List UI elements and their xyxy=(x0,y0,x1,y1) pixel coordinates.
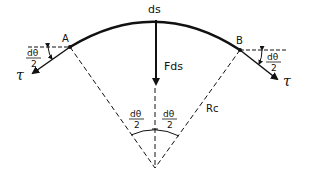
label-force: Fds xyxy=(164,60,183,73)
angle-arc-right xyxy=(259,50,262,64)
svg-text:dθ: dθ xyxy=(27,48,39,58)
fraction-center-right: dθ 2 xyxy=(162,109,177,130)
label-radius: Rc xyxy=(206,103,218,114)
svg-text:dθ: dθ xyxy=(267,52,279,62)
tension-diagram: ds A B Fds Rc τ τ dθ 2 dθ 2 dθ 2 dθ 2 xyxy=(0,0,312,181)
svg-text:dθ: dθ xyxy=(163,109,175,119)
angle-arc-left xyxy=(48,47,52,59)
label-point-b: B xyxy=(236,35,243,46)
label-tension-right: τ xyxy=(283,73,291,89)
label-tension-left: τ xyxy=(16,67,24,83)
label-ds: ds xyxy=(148,3,161,16)
svg-text:2: 2 xyxy=(134,120,140,130)
svg-text:dθ: dθ xyxy=(130,109,142,119)
tension-arrow-left xyxy=(33,47,70,73)
label-point-a: A xyxy=(62,33,69,44)
svg-text:2: 2 xyxy=(271,63,277,73)
svg-text:2: 2 xyxy=(31,59,37,69)
fraction-center-left: dθ 2 xyxy=(129,109,144,130)
fraction-left: dθ 2 xyxy=(26,48,41,69)
radius-line-left xyxy=(70,47,155,168)
svg-text:2: 2 xyxy=(167,120,173,130)
fraction-right: dθ 2 xyxy=(266,52,281,73)
